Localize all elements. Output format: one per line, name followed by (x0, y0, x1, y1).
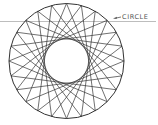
leader-arrow-icon (113, 17, 121, 19)
star-chords (9, 4, 124, 119)
circle-label: CIRCLE (122, 14, 149, 21)
